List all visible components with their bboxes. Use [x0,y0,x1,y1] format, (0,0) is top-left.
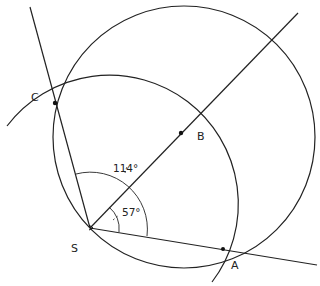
point-c-dot [53,101,57,105]
point-b-dot [179,131,183,135]
label-a: A [231,260,239,271]
label-s: S [71,243,78,254]
arc-centered-at-b [7,75,238,282]
ray-sc [30,7,90,228]
label-c: C [31,92,39,103]
ray-sb [90,13,298,228]
geometry-construction-diagram: C B A S 114° 57° [0,0,320,286]
angle-label-114: 114° [113,163,138,174]
diagram-canvas [0,0,320,286]
point-a-dot [221,247,225,251]
angle-label-57: 57° [122,207,141,218]
label-b: B [197,131,205,142]
angle-arc-114 [76,172,147,236]
ray-sa [90,228,317,265]
